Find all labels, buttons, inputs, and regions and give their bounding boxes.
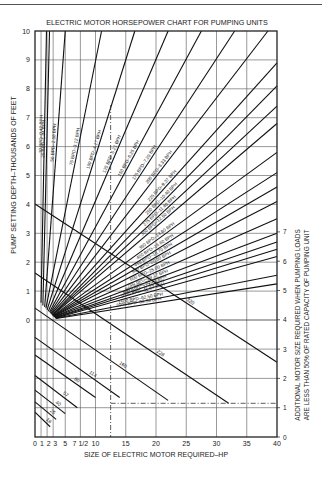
svg-text:2: 2 <box>283 375 287 382</box>
motor-hp-chart: ELECTRIC MOTOR HORSEPOWER CHART FOR PUMP… <box>0 0 322 477</box>
svg-text:7: 7 <box>283 228 287 235</box>
svg-text:15: 15 <box>122 440 130 447</box>
y-axis-label: PUMP SETTING DEPTH–THOUSANDS OF FEET <box>10 96 17 254</box>
svg-text:10: 10 <box>22 28 30 35</box>
y-axis-ticks: 012345678910 <box>22 28 30 324</box>
flow-rate-lines: 10 BPD–0.42 BPH25 BPD–1.04 BPH50 BPD–2.0… <box>38 31 277 319</box>
svg-text:2: 2 <box>47 440 51 447</box>
svg-text:20: 20 <box>152 440 160 447</box>
flow-line-label: 100 BPD–4.17 BPH <box>85 129 102 169</box>
y-axis-right-label-1: ADDITIONAL MOTOR SIZE REQUIRED WHEN PUMP… <box>294 229 302 420</box>
svg-text:0: 0 <box>33 440 37 447</box>
svg-text:40: 40 <box>273 440 281 447</box>
unit-line <box>35 308 168 400</box>
svg-text:6: 6 <box>283 258 287 265</box>
svg-text:5: 5 <box>283 287 287 294</box>
chart-title: ELECTRIC MOTOR HORSEPOWER CHART FOR PUMP… <box>46 18 268 27</box>
svg-text:4: 4 <box>26 201 30 208</box>
svg-text:3: 3 <box>283 346 287 353</box>
y-axis-right-ticks: 01234567 <box>277 228 287 440</box>
x-axis-ticks: 012357 1/210152025303540 <box>33 440 281 447</box>
svg-text:4: 4 <box>283 316 287 323</box>
svg-text:0: 0 <box>26 317 30 324</box>
x-axis-label: SIZE OF ELECTRIC MOTOR REQUIRED–HP <box>84 451 228 459</box>
svg-text:7: 7 <box>26 114 30 121</box>
svg-text:9: 9 <box>26 56 30 63</box>
svg-text:0: 0 <box>283 434 287 441</box>
unit-line-label: 160 <box>118 360 128 370</box>
svg-text:7 1/2: 7 1/2 <box>73 440 89 447</box>
svg-text:2: 2 <box>26 259 30 266</box>
svg-text:1: 1 <box>26 288 30 295</box>
svg-text:1: 1 <box>40 440 44 447</box>
unit-line-label: 320 <box>186 296 196 306</box>
svg-text:6: 6 <box>26 143 30 150</box>
svg-text:3: 3 <box>26 230 30 237</box>
flow-line <box>55 249 277 317</box>
svg-text:5: 5 <box>26 172 30 179</box>
svg-text:5: 5 <box>63 440 67 447</box>
svg-text:8: 8 <box>26 85 30 92</box>
svg-text:30: 30 <box>213 440 221 447</box>
unit-line <box>35 337 120 397</box>
svg-text:3: 3 <box>53 440 57 447</box>
unit-line-label: 228 <box>156 348 166 358</box>
unit-line-label: 114 <box>88 369 98 379</box>
svg-text:10: 10 <box>92 440 100 447</box>
y-axis-right-label-2: ARE LESS THAN 50% OF RATED CAPACITY OF P… <box>303 230 310 421</box>
flow-line-label: 125 BPD–5.21 BPH <box>101 134 122 173</box>
svg-text:25: 25 <box>182 440 190 447</box>
svg-text:35: 35 <box>243 440 251 447</box>
svg-text:1: 1 <box>283 404 287 411</box>
flow-line-label: 25 BPD–1.04 BPH <box>40 120 46 158</box>
